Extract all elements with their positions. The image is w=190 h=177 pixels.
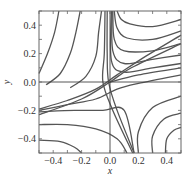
- trajectory-traj-lr-2: [152, 113, 181, 153]
- y-tick-label: 0.4: [24, 20, 37, 31]
- trajectory-traj-ul-3: [70, 11, 101, 88]
- y-axis-label: y: [1, 79, 12, 85]
- x-tick-label: −0.2: [73, 155, 91, 166]
- y-tick-label: −0.4: [18, 133, 36, 144]
- y-tick-label: −0.2: [18, 105, 36, 116]
- trajectory-traj-ur-1: [117, 11, 181, 27]
- trajectory-traj-l-4: [39, 124, 127, 153]
- trajectory-traj-lr-3: [165, 127, 181, 153]
- trajectory-traj-ur-3: [113, 11, 181, 52]
- trajectory-traj-l-3: [39, 107, 134, 153]
- x-axis-label: x: [107, 165, 113, 176]
- y-tick-label: 0.2: [24, 48, 37, 59]
- trajectory-traj-l-5: [39, 140, 82, 153]
- phase-portrait-chart: −0.4−0.20.00.20.4−0.4−0.20.00.20.4 x y: [0, 0, 190, 177]
- x-tick-label: 0.2: [132, 155, 145, 166]
- trajectory-traj-ul-2: [46, 11, 80, 85]
- x-tick-label: −0.4: [44, 155, 62, 166]
- y-tick-label: 0.0: [24, 77, 37, 88]
- trajectory-traj-ul-1: [39, 11, 59, 74]
- x-tick-label: 0.4: [161, 155, 174, 166]
- trajectory-traj-ur-2: [114, 11, 181, 40]
